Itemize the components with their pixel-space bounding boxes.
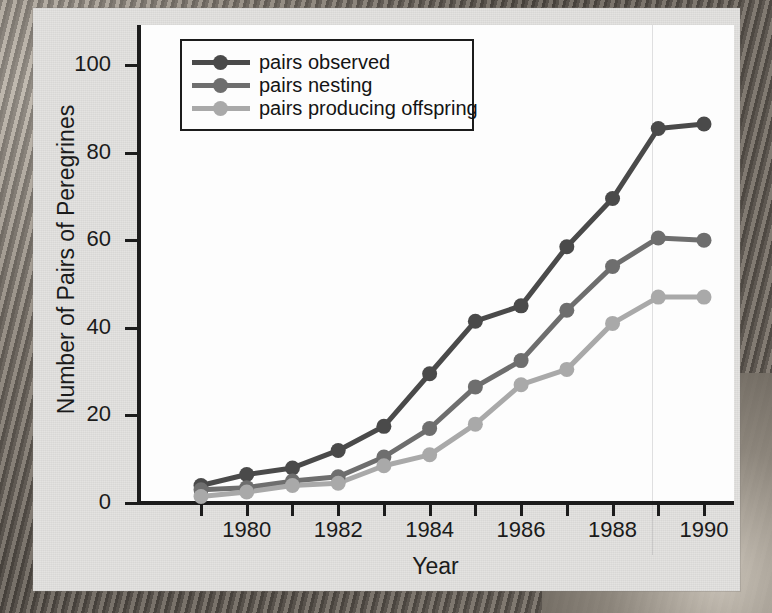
legend-marker-pairs-observed: [213, 55, 228, 70]
series-line-pairs-observed: [201, 124, 704, 485]
legend-item-pairs-producing-offspring: pairs producing offspring: [192, 96, 462, 119]
data-point-pairs-producing-offspring-1985: [468, 417, 483, 432]
legend-label-pairs-nesting: pairs nesting: [259, 75, 372, 95]
series-line-pairs-producing-offspring: [201, 297, 704, 496]
data-point-pairs-observed-1989: [651, 121, 666, 136]
data-point-pairs-nesting-1984: [422, 421, 437, 436]
data-point-pairs-observed-1984: [422, 366, 437, 381]
data-point-pairs-observed-1986: [514, 298, 529, 313]
data-point-pairs-producing-offspring-1989: [651, 290, 666, 305]
data-point-pairs-producing-offspring-1986: [514, 377, 529, 392]
data-point-pairs-nesting-1989: [651, 230, 666, 245]
data-point-pairs-producing-offspring-1987: [559, 362, 574, 377]
data-point-pairs-producing-offspring-1980: [239, 485, 254, 500]
data-point-pairs-nesting-1987: [559, 303, 574, 318]
data-point-pairs-observed-1982: [331, 443, 346, 458]
data-point-pairs-producing-offspring-1988: [605, 316, 620, 331]
data-point-pairs-nesting-1986: [514, 353, 529, 368]
data-point-pairs-observed-1981: [285, 460, 300, 475]
series-line-pairs-nesting: [201, 238, 704, 490]
x-axis-title: Year: [137, 553, 734, 580]
data-point-pairs-producing-offspring-1983: [376, 458, 391, 473]
data-point-pairs-observed-1990: [697, 117, 712, 132]
data-point-pairs-producing-offspring-1979: [194, 489, 209, 504]
legend-swatch-pairs-observed: [192, 55, 250, 69]
data-point-pairs-producing-offspring-1984: [422, 447, 437, 462]
y-axis-title: Number of Pairs of Peregrines: [53, 95, 80, 425]
legend-item-pairs-nesting: pairs nesting: [192, 73, 462, 96]
data-point-pairs-nesting-1990: [697, 233, 712, 248]
data-point-pairs-nesting-1985: [468, 379, 483, 394]
data-point-pairs-observed-1980: [239, 467, 254, 482]
legend-marker-pairs-nesting: [213, 78, 228, 93]
figure-paper-panel: 020406080100198019821984198619881990 pai…: [33, 8, 740, 591]
legend-label-pairs-observed: pairs observed: [259, 52, 390, 72]
data-point-pairs-observed-1985: [468, 314, 483, 329]
data-point-pairs-producing-offspring-1990: [697, 290, 712, 305]
legend-swatch-pairs-nesting: [192, 78, 250, 92]
data-point-pairs-nesting-1988: [605, 259, 620, 274]
data-point-pairs-observed-1987: [559, 239, 574, 254]
legend-item-pairs-observed: pairs observed: [192, 50, 462, 73]
data-point-pairs-producing-offspring-1982: [331, 476, 346, 491]
legend-swatch-pairs-producing-offspring: [192, 101, 250, 115]
chart-legend: pairs observed pairs nesting pairs produ…: [180, 39, 474, 131]
legend-marker-pairs-producing-offspring: [213, 101, 228, 116]
data-point-pairs-observed-1988: [605, 191, 620, 206]
legend-label-pairs-producing-offspring: pairs producing offspring: [259, 98, 478, 118]
data-point-pairs-producing-offspring-1981: [285, 478, 300, 493]
data-point-pairs-observed-1983: [376, 419, 391, 434]
